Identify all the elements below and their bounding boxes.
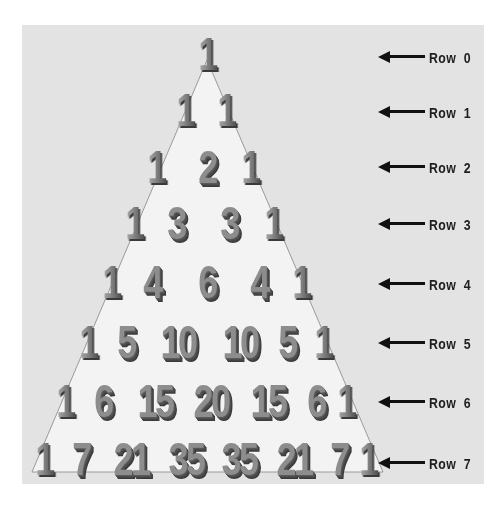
- left-arrow-icon: [378, 333, 425, 353]
- row-7-value-5: 21: [275, 435, 312, 483]
- row-4-value-0: 1: [100, 258, 122, 306]
- row-2-value-2: 1: [239, 143, 261, 191]
- row-label-2: Row 2: [378, 157, 480, 177]
- row-6-value-6: 1: [335, 377, 357, 425]
- left-arrow-icon: [378, 392, 425, 412]
- row-label-0: Row 0: [378, 47, 480, 67]
- row-label-5: Row 5: [378, 333, 480, 353]
- row-label-text: Row 6: [429, 394, 471, 411]
- row-3-value-1: 3: [162, 199, 190, 247]
- row-6-value-2: 15: [136, 377, 173, 425]
- row-3-value-2: 3: [215, 199, 243, 247]
- row-5-value-2: 10: [159, 318, 196, 366]
- row-label-1: Row 1: [378, 102, 480, 122]
- row-label-7: Row 7: [378, 453, 480, 473]
- left-arrow-icon: [378, 47, 425, 67]
- left-arrow-icon: [378, 453, 425, 473]
- left-arrow-icon: [378, 214, 425, 234]
- row-7-value-1: 7: [67, 435, 95, 483]
- row-0-value-0: 1: [196, 30, 218, 78]
- row-label-text: Row 0: [429, 49, 471, 66]
- row-label-text: Row 5: [429, 335, 471, 352]
- row-label-4: Row 4: [378, 274, 480, 294]
- left-arrow-icon: [378, 157, 425, 177]
- row-3-value-3: 1: [262, 199, 284, 247]
- row-label-text: Row 4: [429, 276, 471, 293]
- row-label-text: Row 1: [429, 104, 471, 121]
- row-5-value-4: 5: [273, 318, 301, 366]
- row-label-text: Row 2: [429, 159, 471, 176]
- row-2-value-1: 2: [193, 143, 221, 191]
- row-4-value-1: 4: [138, 258, 166, 306]
- row-7-value-0: 1: [33, 435, 55, 483]
- row-5-value-1: 5: [112, 318, 140, 366]
- row-7-value-4: 35: [220, 435, 257, 483]
- row-4-value-4: 1: [290, 258, 312, 306]
- row-5-value-5: 1: [312, 318, 334, 366]
- row-6-value-0: 1: [54, 377, 76, 425]
- row-5-value-0: 1: [77, 318, 99, 366]
- row-5-value-3: 10: [221, 318, 258, 366]
- left-arrow-icon: [378, 274, 425, 294]
- row-2-value-0: 1: [145, 143, 167, 191]
- triangle-shape: [0, 0, 503, 507]
- row-3-value-0: 1: [123, 199, 145, 247]
- row-1-value-1: 1: [215, 86, 237, 134]
- row-6-value-5: 6: [302, 377, 330, 425]
- row-6-value-4: 15: [249, 377, 286, 425]
- row-label-text: Row 3: [429, 216, 471, 233]
- left-arrow-icon: [378, 102, 425, 122]
- row-label-6: Row 6: [378, 392, 480, 412]
- row-1-value-0: 1: [174, 86, 196, 134]
- row-6-value-1: 6: [89, 377, 117, 425]
- row-7-value-6: 7: [325, 435, 353, 483]
- row-6-value-3: 20: [192, 377, 229, 425]
- row-4-value-3: 4: [245, 258, 273, 306]
- row-label-text: Row 7: [429, 455, 471, 472]
- row-7-value-2: 21: [112, 435, 149, 483]
- row-label-3: Row 3: [378, 214, 480, 234]
- row-7-value-3: 35: [167, 435, 204, 483]
- row-4-value-2: 6: [193, 258, 221, 306]
- row-7-value-7: 1: [357, 435, 379, 483]
